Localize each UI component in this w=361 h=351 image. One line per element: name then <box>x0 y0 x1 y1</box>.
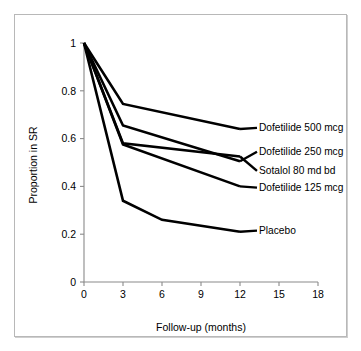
x-axis-title: Follow-up (months) <box>156 321 246 333</box>
x-tick-label: 15 <box>273 288 285 300</box>
y-tick-label: 0.2 <box>61 228 76 240</box>
x-tick-label: 18 <box>312 288 324 300</box>
series-label-leader <box>240 157 257 171</box>
axis-lines <box>84 43 318 282</box>
chart-label-leader-lines <box>240 128 257 232</box>
series-label-leader <box>240 186 257 187</box>
series-label: Placebo <box>259 225 296 236</box>
series-label: Dofetilide 250 mcg <box>259 146 344 157</box>
line-chart: 00.20.40.60.810369121518 Dofetilide 500 … <box>15 15 348 338</box>
chart-series-lines <box>84 43 240 232</box>
chart-plot-area: 00.20.40.60.810369121518 Dofetilide 500 … <box>15 15 348 338</box>
series-label-leader <box>240 231 257 232</box>
y-tick-label: 0.8 <box>61 85 76 97</box>
x-tick-label: 6 <box>159 288 165 300</box>
x-tick-label: 9 <box>198 288 204 300</box>
chart-series-labels: Dofetilide 500 mcgDofetilide 250 mcgSota… <box>259 122 344 236</box>
x-tick-label: 12 <box>234 288 246 300</box>
y-tick-label: 0 <box>70 276 76 288</box>
series-line <box>84 43 240 186</box>
y-tick-label: 0.4 <box>61 180 76 192</box>
y-axis-title: Proportion in SR <box>27 126 39 203</box>
x-tick-label: 0 <box>81 288 87 300</box>
series-label: Sotalol 80 md bd <box>259 165 336 176</box>
series-label: Dofetilide 125 mcg <box>259 182 344 193</box>
series-line <box>84 43 240 129</box>
y-tick-label: 1 <box>70 37 76 49</box>
series-label-leader <box>240 128 257 129</box>
x-tick-label: 3 <box>120 288 126 300</box>
series-label: Dofetilide 500 mcg <box>259 122 344 133</box>
figure-frame: 00.20.40.60.810369121518 Dofetilide 500 … <box>14 14 347 337</box>
y-tick-label: 0.6 <box>61 132 76 144</box>
